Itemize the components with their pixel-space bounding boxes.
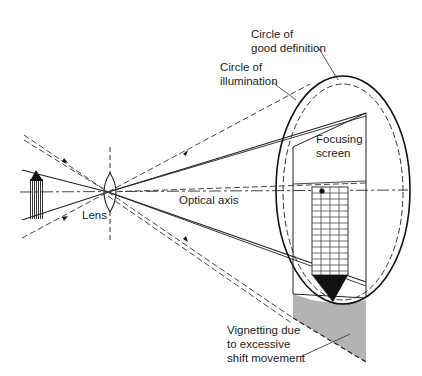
arrow-icon (183, 236, 188, 242)
ray-dashed-top-out (108, 84, 310, 192)
label-vignetting-1: Vignetting due (227, 324, 300, 336)
label-good-definition-2: good definition (251, 42, 326, 54)
label-vignetting-3: shift movement (227, 352, 306, 364)
label-illumination-2: illumination (220, 75, 278, 87)
ray-dashed-bottom-out-2 (108, 196, 293, 324)
label-illumination-1: Circle of (220, 61, 263, 73)
image-arrow-head (312, 275, 348, 302)
projected-image-grid (312, 187, 348, 275)
arrow-icon (62, 158, 68, 163)
label-focusing-2: screen (316, 147, 351, 159)
optics-diagram: Circle of good definition Circle of illu… (0, 0, 422, 376)
label-good-definition-1: Circle of (251, 28, 294, 40)
optical-axis-line (20, 190, 408, 192)
axis-point-dot (319, 188, 324, 193)
label-optical-axis: Optical axis (179, 194, 239, 206)
arrow-icon (62, 216, 68, 221)
label-focusing-1: Focusing (316, 133, 363, 145)
label-vignetting-2: to excessive (227, 338, 290, 350)
label-lens: Lens (82, 209, 107, 221)
ray-dashed-bottom-out-1 (108, 192, 293, 318)
object-arrow-head (30, 170, 43, 181)
object-hatched (30, 179, 43, 219)
arrow-icon (183, 150, 188, 156)
